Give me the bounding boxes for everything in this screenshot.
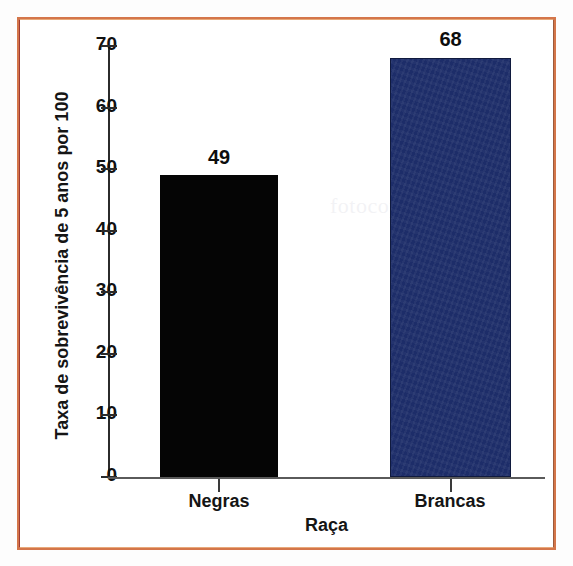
bar-value-negras: 49 [160, 146, 278, 169]
x-axis-title: Raça [108, 515, 545, 536]
y-tick-mark-60 [101, 107, 117, 109]
y-tick-label-0: 0 [73, 464, 117, 486]
x-tick-label-brancas: Brancas [380, 491, 520, 512]
y-tick-label-20: 20 [73, 341, 117, 363]
bar-value-brancas: 68 [390, 28, 511, 51]
x-axis-line [108, 477, 545, 479]
y-tick-mark-50 [101, 168, 117, 170]
x-tick-label-negras: Negras [150, 491, 288, 512]
y-tick-label-60: 60 [73, 95, 117, 117]
y-tick-mark-40 [101, 230, 117, 232]
y-tick-label-50: 50 [73, 156, 117, 178]
y-tick-label-10: 10 [73, 402, 117, 424]
y-tick-mark-70 [101, 45, 117, 47]
bar-negras[interactable] [160, 175, 278, 477]
bar-chart-plot: 0 10 20 30 40 50 60 70 [0, 0, 573, 566]
bar-brancas[interactable] [390, 58, 511, 477]
y-tick-label-70: 70 [73, 33, 117, 55]
y-tick-mark-30 [101, 291, 117, 293]
y-axis-title: Taxa de sobrevivência de 5 anos por 100 [52, 56, 73, 476]
figure-screenshot: fotocopia 0 10 20 30 40 50 60 [0, 0, 573, 566]
y-tick-label-30: 30 [73, 279, 117, 301]
y-tick-label-40: 40 [73, 218, 117, 240]
y-tick-mark-10 [101, 414, 117, 416]
y-tick-mark-20 [101, 353, 117, 355]
